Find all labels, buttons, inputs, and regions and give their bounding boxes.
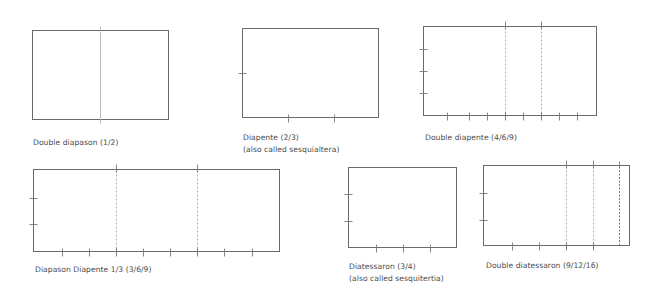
figure-diapason-diapente: [30, 165, 280, 257]
caption-title: Double diatessaron (9/12/16): [486, 260, 599, 272]
figure-diatessaron: [345, 168, 457, 253]
figure-double-diatessaron: [480, 161, 630, 251]
caption-subtitle: (also called sesquitertia): [349, 273, 444, 285]
figure-caption-diapason-diapente: Diapason Diapente 1/3 (3/6/9): [35, 264, 152, 276]
proportion-rectangle: [243, 29, 379, 118]
figure-diapente: [239, 29, 379, 123]
figure-caption-diapente: Diapente (2/3)(also called sesquialtera): [243, 132, 339, 156]
caption-title: Double diapente (4/6/9): [425, 132, 517, 144]
proportion-rectangle: [349, 168, 457, 248]
figure-caption-double-diapente: Double diapente (4/6/9): [425, 132, 517, 144]
proportion-rectangle: [484, 166, 630, 246]
caption-title: Diatessaron (3/4): [349, 261, 444, 273]
caption-title: Double diapason (1/2): [33, 137, 118, 149]
caption-title: Diapente (2/3): [243, 132, 339, 144]
figure-caption-diatessaron: Diatessaron (3/4)(also called sesquitert…: [349, 261, 444, 285]
figure-caption-double-diapason: Double diapason (1/2): [33, 137, 118, 149]
proportion-rectangle: [34, 170, 280, 252]
figure-caption-double-diatessaron: Double diatessaron (9/12/16): [486, 260, 599, 272]
proportion-rectangle: [424, 27, 597, 116]
figure-double-diapason: [33, 27, 169, 124]
caption-title: Diapason Diapente 1/3 (3/6/9): [35, 264, 152, 276]
figure-double-diapente: [420, 22, 597, 121]
caption-subtitle: (also called sesquialtera): [243, 144, 339, 156]
